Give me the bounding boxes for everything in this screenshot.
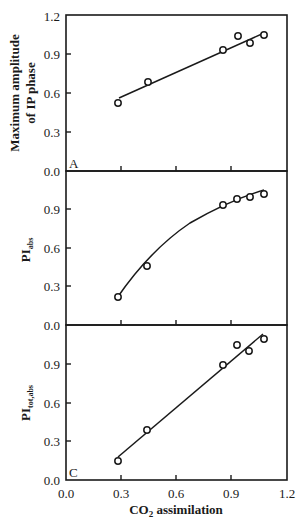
svg-text:0.0: 0.0 [44, 318, 60, 333]
panel-b-frame [66, 171, 287, 325]
y-axis-title-a-line1: Maximum amplitude [7, 34, 22, 152]
svg-text:0.9: 0.9 [223, 486, 239, 501]
svg-text:0.6: 0.6 [44, 86, 61, 101]
svg-text:0.9: 0.9 [44, 357, 60, 372]
y-tick-labels-c: 0.9 0.6 0.3 0.0 [44, 357, 61, 488]
y-axis-title-a-line2: of IP phase [23, 62, 38, 124]
panel-a-frame [66, 15, 287, 171]
svg-text:1.2: 1.2 [279, 486, 295, 501]
svg-text:0.0: 0.0 [44, 164, 60, 179]
svg-text:1.2: 1.2 [44, 9, 60, 24]
panel-a-letter: A [69, 156, 79, 171]
svg-text:0.9: 0.9 [44, 47, 60, 62]
chart-figure: 1.2 0.9 0.6 0.3 0.0 0.9 0.6 0.3 0.0 0.9 … [0, 0, 303, 532]
svg-text:0.3: 0.3 [44, 434, 60, 449]
panel-a-fit-line [119, 33, 264, 98]
panel-c-letter: C [69, 465, 78, 480]
panel-c-fit-line [118, 334, 263, 457]
x-axis-title: CO2 assimilation [129, 502, 223, 519]
y-tick-labels-a: 1.2 0.9 0.6 0.3 0.0 [44, 9, 61, 179]
y-tick-labels-b: 0.9 0.6 0.3 0.0 [44, 202, 61, 333]
panel-c-points [115, 336, 267, 464]
y-axis-title-b: PIabs [18, 238, 35, 263]
svg-text:0.6: 0.6 [168, 486, 185, 501]
panel-b-points [115, 191, 267, 300]
panel-a-points [115, 32, 267, 106]
svg-text:0.9: 0.9 [44, 202, 60, 217]
svg-text:0.3: 0.3 [44, 279, 60, 294]
svg-text:0.3: 0.3 [113, 486, 129, 501]
svg-text:0.6: 0.6 [44, 241, 61, 256]
svg-text:0.6: 0.6 [44, 396, 61, 411]
svg-text:0.3: 0.3 [44, 125, 60, 140]
y-axis-title-c: PItot,abs [18, 385, 35, 421]
panel-c-frame [66, 325, 287, 480]
x-tick-labels: 0.0 0.3 0.6 0.9 1.2 [58, 486, 295, 501]
svg-text:0.0: 0.0 [58, 486, 74, 501]
panel-b-fit-curve [117, 190, 264, 298]
